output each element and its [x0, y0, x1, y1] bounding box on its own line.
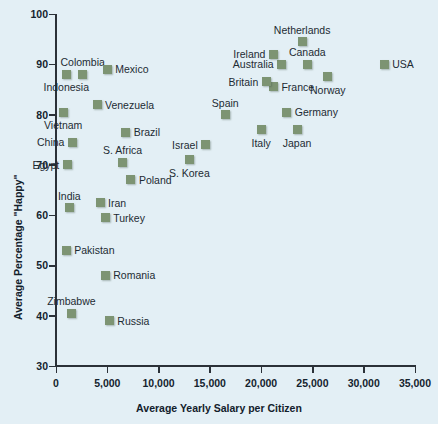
data-point-label-venezuela: Venezuela	[105, 99, 154, 111]
x-tick-25000	[312, 366, 314, 373]
data-point-label-netherlands: Netherlands	[274, 24, 331, 36]
data-point-brazil[interactable]	[121, 128, 130, 137]
plot-area: 3040506070809010005,00010,00015,00020,00…	[0, 0, 438, 424]
x-tick-label-30000: 30,000	[348, 377, 380, 389]
data-point-venezuela[interactable]	[93, 100, 102, 109]
data-point-colombia[interactable]	[78, 70, 87, 79]
data-point-s-korea[interactable]	[185, 155, 194, 164]
data-point-label-israel: Israel	[172, 139, 198, 151]
data-point-turkey[interactable]	[101, 213, 110, 222]
y-tick-label-100: 100	[18, 8, 48, 20]
x-tick-20000	[261, 366, 263, 373]
data-point-netherlands[interactable]	[298, 37, 307, 46]
x-tick-5000	[107, 366, 109, 373]
data-point-mexico[interactable]	[103, 65, 112, 74]
data-point-japan[interactable]	[293, 125, 302, 134]
data-point-label-poland: Poland	[139, 174, 172, 186]
x-axis-title: Average Yearly Salary per Citizen	[0, 402, 438, 414]
x-tick-15000	[209, 366, 211, 373]
data-point-label-russia: Russia	[117, 315, 149, 327]
data-point-label-canada: Canada	[289, 46, 326, 58]
data-point-label-egypt: Egypt	[32, 159, 59, 171]
data-point-label-mexico: Mexico	[115, 63, 148, 75]
data-point-label-turkey: Turkey	[113, 212, 145, 224]
data-point-iran[interactable]	[96, 198, 105, 207]
x-tick-label-25000: 25,000	[296, 377, 328, 389]
data-point-zimbabwe[interactable]	[67, 309, 76, 318]
data-point-label-britain: Britain	[229, 76, 259, 88]
data-point-label-ireland: Ireland	[233, 48, 265, 60]
data-point-label-vietnam: Vietnam	[44, 119, 82, 131]
x-tick-30000	[363, 366, 365, 373]
y-tick-60	[49, 215, 56, 217]
x-tick-label-15000: 15,000	[194, 377, 226, 389]
y-tick-50	[49, 265, 56, 267]
data-point-label-s-africa: S. Africa	[103, 144, 142, 156]
data-point-australia[interactable]	[277, 60, 286, 69]
data-point-label-iran: Iran	[108, 197, 126, 209]
data-point-label-usa: USA	[392, 58, 414, 70]
y-tick-label-90: 90	[18, 58, 48, 70]
x-tick-0	[56, 366, 58, 373]
data-point-indonesia[interactable]	[62, 70, 71, 79]
x-axis-line	[55, 365, 416, 367]
data-point-israel[interactable]	[201, 140, 210, 149]
data-point-label-japan: Japan	[283, 137, 312, 149]
x-tick-35000	[415, 366, 417, 373]
data-point-canada[interactable]	[303, 60, 312, 69]
y-tick-80	[49, 114, 56, 116]
y-tick-90	[49, 64, 56, 66]
scatter-chart: 3040506070809010005,00010,00015,00020,00…	[0, 0, 438, 424]
data-point-label-zimbabwe: Zimbabwe	[47, 295, 95, 307]
data-point-label-norway: Norway	[310, 84, 346, 96]
y-axis-line	[55, 14, 57, 367]
data-point-label-china: China	[37, 136, 64, 148]
data-point-label-colombia: Colombia	[60, 56, 104, 68]
data-point-romania[interactable]	[101, 271, 110, 280]
data-point-poland[interactable]	[126, 175, 135, 184]
x-tick-label-0: 0	[53, 377, 59, 389]
x-tick-10000	[158, 366, 160, 373]
data-point-germany[interactable]	[282, 108, 291, 117]
data-point-usa[interactable]	[380, 60, 389, 69]
data-point-india[interactable]	[65, 203, 74, 212]
data-point-russia[interactable]	[105, 316, 114, 325]
data-point-label-romania: Romania	[113, 269, 155, 281]
x-tick-label-5000: 5,000	[94, 377, 120, 389]
data-point-label-brazil: Brazil	[134, 126, 160, 138]
data-point-italy[interactable]	[257, 125, 266, 134]
data-point-britain[interactable]	[262, 77, 271, 86]
data-point-label-india: India	[58, 190, 81, 202]
x-tick-label-10000: 10,000	[143, 377, 175, 389]
data-point-label-pakistan: Pakistan	[74, 244, 114, 256]
y-tick-40	[49, 315, 56, 317]
data-point-label-spain: Spain	[212, 97, 239, 109]
data-point-s-africa[interactable]	[118, 158, 127, 167]
data-point-norway[interactable]	[323, 72, 332, 81]
data-point-ireland[interactable]	[269, 50, 278, 59]
data-point-label-italy: Italy	[252, 137, 271, 149]
data-point-china[interactable]	[68, 138, 77, 147]
data-point-label-s-korea: S. Korea	[169, 167, 210, 179]
data-point-label-indonesia: Indonesia	[43, 81, 89, 93]
y-axis-title: Average Percentage "Happy"	[12, 174, 24, 320]
y-tick-100	[49, 14, 56, 16]
data-point-spain[interactable]	[221, 110, 230, 119]
data-point-egypt[interactable]	[63, 160, 72, 169]
x-tick-label-35000: 35,000	[399, 377, 431, 389]
x-tick-label-20000: 20,000	[245, 377, 277, 389]
data-point-vietnam[interactable]	[59, 108, 68, 117]
data-point-label-germany: Germany	[295, 106, 338, 118]
data-point-pakistan[interactable]	[62, 246, 71, 255]
y-tick-label-30: 30	[18, 360, 48, 372]
